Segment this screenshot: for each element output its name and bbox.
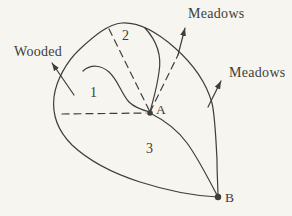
wooded-label: Wooded [14,45,62,59]
meadows-right-arrow-icon [208,81,221,107]
region-3-label: 3 [146,142,153,156]
point-a-dot [147,110,153,116]
dashed-horizontal-line [62,113,146,114]
point-b-label: B [225,191,234,205]
region-1-label: 1 [90,86,97,100]
meadows-right-label: Meadows [229,66,286,80]
dashed-line-left-of-region2 [109,29,150,112]
meadows-top-label: Meadows [188,7,245,21]
region2-divider-curve [145,28,160,112]
land-regions-diagram: Wooded Meadows Meadows 1 2 3 A B [0,0,292,216]
a-to-b-divider-curve [150,113,218,197]
outer-boundary-curve [54,23,218,197]
diagram-geometry [0,0,292,216]
point-b-dot [215,194,221,200]
meadows-top-arrow-icon [178,28,185,55]
region-2-label: 2 [122,29,129,43]
point-a-label: A [156,103,166,117]
